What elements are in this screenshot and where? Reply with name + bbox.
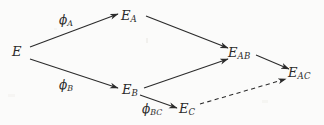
node-EAC: EAC (288, 66, 311, 79)
arrow-E-to-EB (30, 59, 118, 88)
node-EC: EC (179, 102, 195, 115)
node-EC-subscript: C (189, 107, 196, 117)
node-EB-subscript: B (132, 88, 139, 98)
node-EA-subscript: A (131, 14, 137, 24)
node-EAC-subscript: AC (298, 71, 311, 81)
arrow-EC-to-EAC-dashed (200, 79, 286, 104)
arrow-EA-to-EAB (146, 16, 228, 48)
arrow-EAB-to-EAC (256, 55, 289, 69)
edge-label-phi-B-subscript: B (67, 84, 73, 93)
node-EAC-base: E (288, 65, 298, 80)
commutative-diagram: E EA EB EC EAB EAC ϕA ϕB ϕBC (0, 0, 324, 125)
node-EC-base: E (179, 101, 189, 116)
node-E: E (12, 45, 22, 58)
phi-glyph: ϕ (59, 78, 67, 92)
edge-label-phi-B: ϕB (59, 79, 73, 91)
arrow-EB-to-EAB (144, 59, 228, 88)
node-EB-base: E (122, 82, 132, 97)
phi-glyph: ϕ (142, 102, 150, 116)
node-E-base: E (12, 44, 22, 59)
node-EAB-subscript: AB (238, 51, 251, 61)
node-EA-base: E (121, 8, 131, 23)
node-EAB: EAB (228, 46, 250, 59)
node-EB: EB (122, 83, 138, 96)
edge-label-phi-BC: ϕBC (142, 103, 163, 115)
node-EA: EA (121, 9, 137, 22)
arrow-E-to-EA (30, 14, 118, 47)
phi-glyph: ϕ (59, 13, 67, 27)
edge-label-phi-BC-subscript: BC (150, 108, 162, 117)
edge-label-phi-A: ϕA (59, 14, 73, 26)
node-EAB-base: E (228, 45, 238, 60)
edge-label-phi-A-subscript: A (67, 19, 73, 28)
